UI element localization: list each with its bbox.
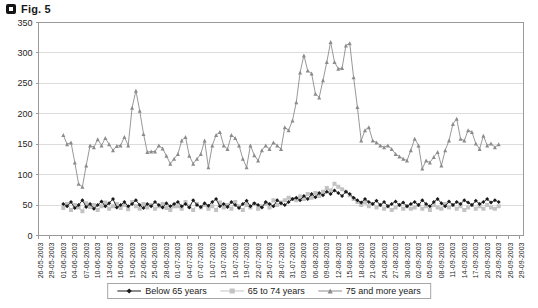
svg-text:25-06-2003: 25-06-2003: [151, 242, 158, 278]
legend-label-below-65: Below 65 years: [145, 286, 207, 296]
svg-text:24-08-2003: 24-08-2003: [381, 242, 388, 278]
svg-text:28-06-2003: 28-06-2003: [163, 242, 170, 278]
series-65-to-74-years: [61, 182, 500, 213]
svg-text:01-06-2003: 01-06-2003: [60, 242, 67, 278]
figure-marker-icon: [6, 4, 16, 14]
svg-text:07-07-2003: 07-07-2003: [197, 242, 204, 278]
svg-text:50: 50: [22, 200, 32, 210]
svg-text:22-07-2003: 22-07-2003: [255, 242, 262, 278]
svg-text:29-09-2003: 29-09-2003: [518, 242, 525, 278]
legend-marker-square-icon: [220, 286, 244, 296]
svg-text:13-06-2003: 13-06-2003: [106, 242, 113, 278]
svg-text:100: 100: [17, 170, 32, 180]
legend-label-75-and-more: 75 and more years: [346, 286, 421, 296]
svg-text:26-09-2003: 26-09-2003: [507, 242, 514, 278]
legend-item-75-and-more: 75 and more years: [318, 286, 421, 296]
figure-marker-inner-square: [9, 7, 13, 11]
svg-text:13-07-2003: 13-07-2003: [220, 242, 227, 278]
svg-text:30-08-2003: 30-08-2003: [404, 242, 411, 278]
svg-text:250: 250: [17, 78, 32, 88]
svg-text:26-05-2003: 26-05-2003: [37, 242, 44, 278]
svg-text:150: 150: [17, 139, 32, 149]
svg-text:01-07-2003: 01-07-2003: [174, 242, 181, 278]
svg-text:19-07-2003: 19-07-2003: [243, 242, 250, 278]
svg-text:27-08-2003: 27-08-2003: [392, 242, 399, 278]
svg-text:12-08-2003: 12-08-2003: [335, 242, 342, 278]
svg-text:08-09-2003: 08-09-2003: [438, 242, 445, 278]
svg-text:10-07-2003: 10-07-2003: [209, 242, 216, 278]
svg-text:20-09-2003: 20-09-2003: [484, 242, 491, 278]
figure-label: Fig. 5: [21, 3, 51, 15]
svg-text:22-06-2003: 22-06-2003: [140, 242, 147, 278]
svg-text:25-07-2003: 25-07-2003: [266, 242, 273, 278]
svg-text:03-08-2003: 03-08-2003: [300, 242, 307, 278]
svg-text:17-09-2003: 17-09-2003: [472, 242, 479, 278]
svg-text:200: 200: [17, 109, 32, 119]
svg-text:15-08-2003: 15-08-2003: [346, 242, 353, 278]
svg-text:16-06-2003: 16-06-2003: [117, 242, 124, 278]
y-axis-labels: 050100150200250300350: [17, 18, 38, 241]
series-75-and-more-years: [61, 40, 500, 189]
gridlines: [39, 23, 524, 206]
svg-text:19-06-2003: 19-06-2003: [129, 242, 136, 278]
legend-marker-diamond-icon: [117, 286, 141, 296]
svg-text:29-05-2003: 29-05-2003: [48, 242, 55, 278]
svg-text:11-09-2003: 11-09-2003: [449, 242, 456, 277]
svg-text:28-07-2003: 28-07-2003: [278, 242, 285, 278]
figure-header: Fig. 5: [6, 3, 51, 15]
svg-text:16-07-2003: 16-07-2003: [232, 242, 239, 278]
svg-text:06-08-2003: 06-08-2003: [312, 242, 319, 278]
svg-text:0: 0: [27, 231, 32, 241]
svg-text:04-06-2003: 04-06-2003: [71, 242, 78, 278]
legend-label-65-to-74: 65 to 74 years: [248, 286, 305, 296]
legend-item-65-to-74: 65 to 74 years: [220, 286, 305, 296]
svg-text:31-07-2003: 31-07-2003: [289, 242, 296, 278]
svg-text:05-09-2003: 05-09-2003: [426, 242, 433, 278]
svg-text:04-07-2003: 04-07-2003: [186, 242, 193, 278]
svg-text:02-09-2003: 02-09-2003: [415, 242, 422, 278]
chart-canvas: 05010015020025030035026-05-200329-05-200…: [0, 0, 538, 308]
svg-text:18-08-2003: 18-08-2003: [358, 242, 365, 278]
legend-marker-triangle-icon: [318, 286, 342, 296]
svg-text:350: 350: [17, 18, 32, 28]
svg-text:21-08-2003: 21-08-2003: [369, 242, 376, 278]
x-axis-labels: 26-05-200329-05-200301-06-200304-06-2003…: [37, 236, 525, 279]
svg-text:09-08-2003: 09-08-2003: [323, 242, 330, 278]
svg-text:300: 300: [17, 48, 32, 58]
svg-text:10-06-2003: 10-06-2003: [94, 242, 101, 278]
svg-text:07-06-2003: 07-06-2003: [83, 242, 90, 278]
svg-text:23-09-2003: 23-09-2003: [495, 242, 502, 278]
svg-text:14-09-2003: 14-09-2003: [461, 242, 468, 278]
legend-item-below-65: Below 65 years: [117, 286, 207, 296]
legend: Below 65 years 65 to 74 years 75 and mor…: [107, 283, 431, 299]
